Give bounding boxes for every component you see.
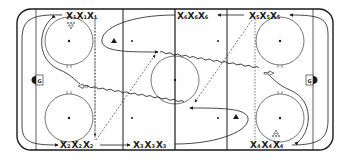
svg-text:X2X2X2: X2X2X2 <box>60 140 94 150</box>
player-group-x4: X4X4X4 <box>250 140 284 150</box>
svg-text:X5X5X5: X5X5X5 <box>249 11 281 21</box>
pass-x5-down <box>195 20 252 102</box>
hockey-rink-diagram: G G <box>0 0 350 160</box>
svg-text:X6X6X6: X6X6X6 <box>177 11 209 21</box>
goal-right: G <box>306 75 318 85</box>
path-x3-loop <box>175 108 248 144</box>
player-group-x1: X1X1X1 <box>66 11 98 21</box>
player-group-x5: X5X5X5 <box>249 11 281 21</box>
player-group-x2: X2X2X2 <box>60 140 94 150</box>
svg-text:X4X4X4: X4X4X4 <box>250 140 284 150</box>
goal-left: G <box>32 75 44 85</box>
svg-text:X1X1X1: X1X1X1 <box>66 11 98 21</box>
player-group-x6: X6X6X6 <box>177 11 209 21</box>
path-x6-loop <box>102 15 175 52</box>
open-arrow-right <box>264 71 274 76</box>
pucks-icon <box>272 130 280 137</box>
pass-x2-up <box>96 55 155 140</box>
path-x4-curve <box>270 76 308 142</box>
open-arrow-left <box>78 84 88 89</box>
puck-carry-bottom <box>85 85 184 102</box>
goalie-label-left: G <box>37 78 41 84</box>
goalie-label-right: G <box>307 78 311 84</box>
pucks-icon <box>67 22 75 29</box>
svg-text:X3X3X3: X3X3X3 <box>133 140 167 150</box>
cone-icon <box>111 38 117 43</box>
player-group-x3: X3X3X3 <box>133 140 167 150</box>
cone-icon <box>233 114 239 119</box>
